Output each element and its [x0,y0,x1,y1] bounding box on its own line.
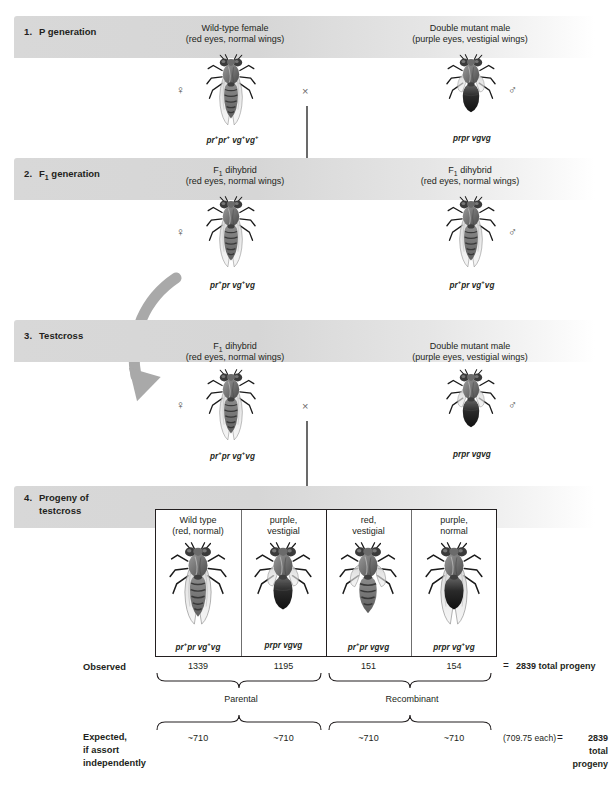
progeny-col-1-genotype: pr+pr vg+vg [155,641,241,652]
progeny-col-2-phenotype-line2: vestigial [241,526,326,538]
fly-illustration-testcross-male [436,369,506,445]
step-1-number: 1. [24,26,32,38]
expected-row-label-line3: independently [83,757,146,770]
observed-row-label: Observed [83,661,126,674]
f1-female-caption-line2: (red eyes, normal wings) [150,176,320,188]
progeny-col-2-genotype: prpr vgvg [241,641,326,650]
p-male-genotype: prpr vgvg [392,134,552,143]
figure-canvas: 1. P generation Wild-type female (red ey… [0,0,609,794]
step-1-title: P generation [39,26,96,38]
female-symbol-p: ♀ [176,84,185,96]
observed-equals-sign: = [503,660,509,671]
step-2-title: F1 generation [39,168,100,184]
step-4-number: 4. [24,492,32,504]
progeny-col-4-genotype: prpr vg+vg [411,641,497,652]
male-symbol-p: ♂ [508,84,517,96]
expected-value-2: ~710 [241,733,326,743]
fly-illustration-f1-female [196,196,266,272]
f1-male-caption-line2: (red eyes, normal wings) [370,176,570,188]
p-male-caption-line1: Double mutant male [370,23,570,35]
brace-recombinant-observed [327,673,497,689]
expected-value-1: ~710 [155,733,241,743]
testcross-male-genotype: prpr vgvg [392,450,552,459]
observed-value-4: 154 [411,661,497,671]
fly-illustration-progeny-2 [250,542,316,630]
female-symbol-f1: ♀ [176,226,185,238]
observed-value-2: 1195 [241,661,326,671]
progeny-col-3-genotype: pr+pr vgvg [326,641,411,652]
testcross-male-caption-line1: Double mutant male [370,341,570,353]
observed-value-3: 151 [326,661,411,671]
f1-male-genotype: pr+pr vg+vg [392,279,552,290]
female-symbol-testcross: ♀ [176,399,185,411]
male-symbol-f1: ♂ [508,226,517,238]
p-female-genotype: pr+pr+ vg+vg+ [155,134,310,145]
progeny-col-4-phenotype-line2: normal [411,526,497,538]
progeny-col-1-phenotype-line1: Wild type [155,515,241,527]
brace-parental-expected [155,714,327,730]
male-symbol-testcross: ♂ [508,399,517,411]
observed-total: 2839 total progeny [516,661,608,671]
parental-label: Parental [155,694,327,704]
p-male-caption-line2: (purple eyes, vestigial wings) [370,34,570,46]
step-4-title-line2: testcross [39,505,81,517]
brace-recombinant-expected [327,714,497,730]
expected-total-line2: total [530,746,608,756]
step-3-number: 3. [24,330,32,342]
fly-illustration-p-male [436,54,506,130]
fly-illustration-progeny-1 [165,542,231,630]
progeny-col-4-phenotype-line1: purple, [411,515,497,527]
progeny-col-3-phenotype-line2: vestigial [326,526,411,538]
p-female-caption-line2: (red eyes, normal wings) [150,34,320,46]
expected-row-label-line1: Expected, [83,731,127,744]
cross-symbol-p: × [302,86,308,97]
step-4-title-line1: Progeny of [39,492,89,504]
progeny-col-1-phenotype-line2: (red, normal) [155,526,241,538]
fly-illustration-progeny-3 [335,542,401,630]
expected-total-line3: progeny [530,759,608,769]
expected-total-line1: 2839 [530,733,608,743]
step-2-number: 2. [24,168,32,180]
brace-parental-observed [155,673,327,689]
p-female-caption-line1: Wild-type female [150,23,320,35]
progeny-col-3-phenotype-line1: red, [326,515,411,527]
expected-value-4: ~710 [411,733,497,743]
progeny-col-2-phenotype-line1: purple, [241,515,326,527]
expected-row-label-line2: if assort [83,744,119,757]
testcross-female-genotype: pr+pr vg+vg [155,450,310,461]
testcross-male-caption-line2: (purple eyes, vestigial wings) [370,352,570,364]
step-3-title: Testcross [39,330,83,342]
fly-illustration-p-female [196,54,266,130]
expected-value-3: ~710 [326,733,411,743]
observed-value-1: 1339 [155,661,241,671]
fly-illustration-f1-male [436,196,506,272]
cross-symbol-testcross: × [302,401,308,412]
fly-illustration-progeny-4 [421,542,487,630]
recombinant-label: Recombinant [327,694,497,704]
testcross-female-caption-line2: (red eyes, normal wings) [150,352,320,364]
fly-illustration-testcross-female [196,369,266,445]
